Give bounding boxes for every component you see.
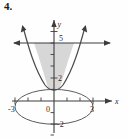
y-axis-label: y — [57, 20, 62, 29]
y-tick-label-5: 5 — [59, 34, 63, 43]
math-figure: 4. — [0, 0, 128, 139]
horizontal-line-right-arrowhead — [104, 40, 111, 46]
horizontal-line-left-arrowhead — [13, 40, 20, 46]
parabola-left-arrowhead — [21, 25, 27, 33]
parabola-right-arrowhead — [82, 25, 88, 33]
y-tick-label-2: 2 — [58, 74, 62, 83]
x-tick-label-neg3: -3 — [8, 105, 15, 114]
x-tick-label-3: 3 — [90, 105, 94, 114]
y-axis-arrowhead — [51, 20, 56, 27]
x-tick-label-origin: 0 — [46, 105, 50, 114]
y-tick-label-neg2: -2 — [57, 120, 64, 129]
x-axis-arrowhead — [105, 98, 112, 104]
x-axis-label: x — [114, 97, 119, 106]
coordinate-plot: y x 5 2 -2 -3 0 3 — [0, 0, 128, 139]
